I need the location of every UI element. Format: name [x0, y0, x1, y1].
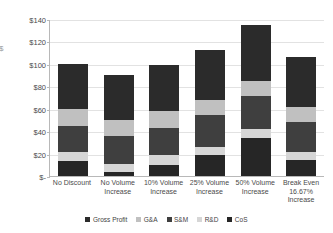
x-axis-label: 50% VolumeIncrease [232, 179, 278, 205]
bar-segment-r-d[interactable] [241, 129, 271, 138]
legend-swatch-icon [167, 217, 172, 222]
legend-label: G&A [144, 216, 158, 223]
bar-segment-gross-profit[interactable] [241, 25, 271, 81]
legend-label: CoS [235, 216, 248, 223]
bar-series-group [50, 20, 324, 176]
bar-segment-cos[interactable] [286, 160, 316, 176]
bar-segment-s-m[interactable] [104, 136, 134, 164]
bar-segment-s-m[interactable] [149, 128, 179, 155]
stacked-bar[interactable] [241, 25, 271, 176]
bar-slot [50, 20, 96, 176]
y-axis-tick-label: $20 [0, 150, 46, 159]
bar-segment-g-a[interactable] [241, 81, 271, 97]
bar-slot [96, 20, 142, 176]
legend-label: S&M [174, 216, 188, 223]
x-axis-label: 25% VolumeIncrease [186, 179, 232, 205]
legend-label: Gross Profit [93, 216, 127, 223]
stacked-bar[interactable] [195, 50, 225, 176]
bar-segment-g-a[interactable] [195, 100, 225, 116]
y-axis-tick-label: $100 [0, 60, 46, 69]
bar-segment-cos[interactable] [104, 172, 134, 176]
x-axis-category-labels: No DiscountNo VolumeIncrease10% VolumeIn… [49, 179, 324, 205]
stacked-bar[interactable] [104, 75, 134, 176]
bar-slot [233, 20, 279, 176]
bar-segment-r-d[interactable] [195, 147, 225, 155]
legend-swatch-icon [197, 217, 202, 222]
bar-segment-gross-profit[interactable] [286, 57, 316, 106]
x-axis-label: No Discount [49, 179, 95, 205]
bar-segment-r-d[interactable] [149, 155, 179, 165]
bar-slot [187, 20, 233, 176]
bar-segment-r-d[interactable] [104, 164, 134, 172]
bar-segment-gross-profit[interactable] [195, 50, 225, 100]
bar-segment-s-m[interactable] [286, 122, 316, 152]
bar-segment-cos[interactable] [58, 161, 88, 176]
legend-item[interactable]: Gross Profit [85, 216, 127, 223]
bar-segment-g-a[interactable] [104, 120, 134, 136]
stacked-column-chart: $ $-$20$40$60$80$100$120$140 No Discount… [0, 0, 333, 233]
bar-segment-s-m[interactable] [58, 126, 88, 153]
bar-segment-gross-profit[interactable] [104, 75, 134, 120]
x-axis-label: No VolumeIncrease [95, 179, 141, 205]
legend-item[interactable]: R&D [197, 216, 218, 223]
y-axis-tick-label: $60 [0, 105, 46, 114]
x-axis-label: 10% VolumeIncrease [141, 179, 187, 205]
bar-segment-r-d[interactable] [286, 152, 316, 160]
chart-legend: Gross ProfitG&AS&MR&DCoS [0, 216, 333, 223]
bar-segment-s-m[interactable] [241, 96, 271, 129]
x-axis-label: Break Even16.67%Increase [278, 179, 324, 205]
y-axis-tick-label: $- [0, 173, 46, 182]
bar-segment-g-a[interactable] [58, 109, 88, 126]
bar-segment-g-a[interactable] [149, 111, 179, 128]
y-axis-tick-label: $40 [0, 128, 46, 137]
bar-segment-cos[interactable] [149, 165, 179, 176]
plot-area [49, 20, 324, 177]
legend-swatch-icon [136, 217, 141, 222]
stacked-bar[interactable] [286, 57, 316, 176]
y-axis-tick [47, 177, 50, 178]
bar-slot [141, 20, 187, 176]
bar-slot [278, 20, 324, 176]
bar-segment-cos[interactable] [195, 155, 225, 176]
y-axis-tick-label: $140 [0, 16, 46, 25]
stacked-bar[interactable] [58, 64, 88, 176]
stacked-bar[interactable] [149, 65, 179, 176]
bar-segment-cos[interactable] [241, 138, 271, 176]
legend-swatch-icon [85, 217, 90, 222]
legend-item[interactable]: S&M [167, 216, 189, 223]
legend-swatch-icon [227, 217, 232, 222]
bar-segment-s-m[interactable] [195, 115, 225, 146]
bar-segment-gross-profit[interactable] [149, 65, 179, 111]
bar-segment-r-d[interactable] [58, 152, 88, 161]
y-axis-tick-label: $120 [0, 38, 46, 47]
bar-segment-g-a[interactable] [286, 107, 316, 123]
legend-item[interactable]: CoS [227, 216, 247, 223]
y-axis-tick-label: $80 [0, 83, 46, 92]
legend-item[interactable]: G&A [136, 216, 157, 223]
gridline [50, 177, 324, 178]
legend-label: R&D [205, 216, 219, 223]
bar-segment-gross-profit[interactable] [58, 64, 88, 109]
